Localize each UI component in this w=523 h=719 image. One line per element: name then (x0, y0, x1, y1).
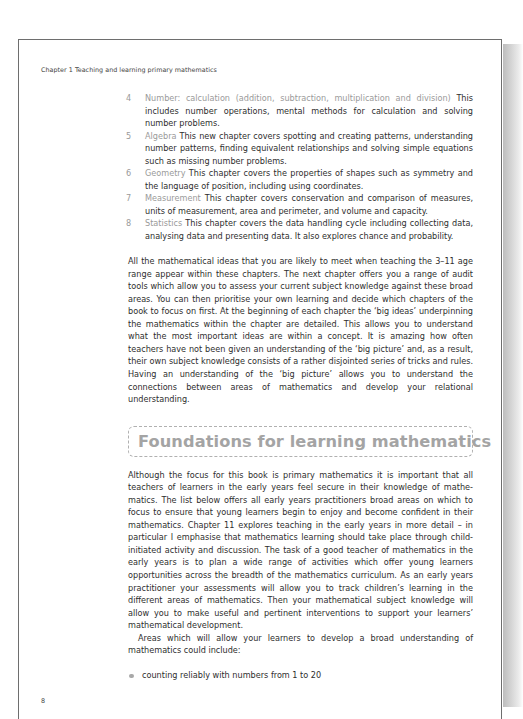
chapter-topic: Number: calculation (addition, subtracti… (145, 93, 451, 103)
chapter-description: This chapter covers the data handling cy… (145, 218, 473, 241)
chapter-number: 5 (126, 130, 131, 143)
section-paragraph: Although the focus for this book is prim… (128, 469, 473, 632)
chapter-topic: Geometry (145, 168, 186, 178)
section-heading: Foundations for learning mathematics (128, 426, 473, 457)
chapter-number: 6 (126, 167, 131, 180)
chapter-list-item: 4Number: calculation (addition, subtract… (128, 92, 473, 130)
page-number: 8 (41, 697, 45, 705)
chapter-topic: Measurement (145, 193, 201, 203)
chapter-description: This new chapter covers spotting and cre… (145, 131, 473, 166)
running-head: Chapter 1 Teaching and learning primary … (41, 66, 217, 74)
book-page: Chapter 1 Teaching and learning primary … (18, 39, 502, 719)
page-shadow (503, 44, 523, 707)
bullet-icon (129, 674, 134, 679)
chapter-list: 4Number: calculation (addition, subtract… (128, 92, 473, 243)
section-paragraph-continued: Areas which will allow your learners to … (128, 632, 473, 657)
chapter-list-item: 5Algebra This new chapter covers spottin… (128, 130, 473, 168)
chapter-number: 4 (126, 92, 131, 105)
chapter-list-item: 6Geometry This chapter covers the proper… (128, 167, 473, 192)
chapter-number: 8 (126, 217, 131, 230)
chapter-list-item: 7Measurement This chapter covers conserv… (128, 192, 473, 217)
chapter-topic: Algebra (145, 131, 176, 141)
page-content: 4Number: calculation (addition, subtract… (128, 92, 473, 682)
chapter-list-item: 8Statistics This chapter covers the data… (128, 217, 473, 242)
intro-paragraph: All the mathematical ideas that you are … (128, 255, 473, 406)
chapter-topic: Statistics (145, 218, 182, 228)
bullet-text: counting reliably with numbers from 1 to… (142, 670, 321, 680)
chapter-description: This chapter covers the properties of sh… (145, 168, 473, 191)
bullet-item: counting reliably with numbers from 1 to… (128, 669, 473, 682)
chapter-number: 7 (126, 192, 131, 205)
areas-bullet-list: counting reliably with numbers from 1 to… (128, 669, 473, 682)
